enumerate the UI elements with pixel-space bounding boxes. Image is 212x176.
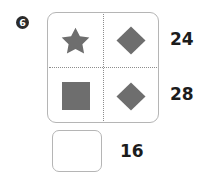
answer-input-box[interactable] — [52, 130, 102, 172]
puzzle-page: 6 — [0, 0, 212, 176]
shape-grid-card — [47, 12, 159, 123]
diamond-icon — [116, 82, 146, 111]
diamond-icon — [116, 26, 146, 55]
grid-cell-row1-col2 — [103, 13, 158, 67]
row-sum-1: 24 — [170, 29, 193, 49]
column-sum-label: 16 — [120, 141, 143, 161]
row-sum-2: 28 — [170, 84, 193, 104]
grid-cell-row2-col2 — [103, 69, 158, 123]
square-icon — [62, 82, 90, 110]
star-icon — [61, 27, 90, 54]
grid-cell-row2-col1 — [48, 69, 103, 123]
problem-number-badge: 6 — [16, 16, 29, 29]
grid-cell-row1-col1 — [48, 13, 103, 67]
